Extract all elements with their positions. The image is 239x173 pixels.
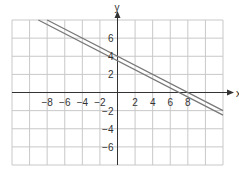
x-tick-label: 4 bbox=[150, 97, 156, 108]
y-tick-label: −6 bbox=[102, 142, 114, 153]
x-tick-label: 8 bbox=[185, 97, 191, 108]
x-tick-label: 2 bbox=[132, 97, 138, 108]
y-tick-label: 2 bbox=[108, 69, 114, 80]
x-tick-label: 6 bbox=[167, 97, 173, 108]
x-tick-label: −6 bbox=[59, 97, 71, 108]
y-tick-label: −2 bbox=[102, 106, 114, 117]
y-tick-label: 4 bbox=[108, 51, 114, 62]
x-tick-label: −8 bbox=[41, 97, 53, 108]
axes bbox=[12, 11, 234, 165]
x-axis-arrow-icon bbox=[227, 90, 234, 96]
x-axis-label: x bbox=[236, 88, 239, 99]
y-tick-label: 6 bbox=[108, 33, 114, 44]
y-axis-label: y bbox=[115, 2, 120, 13]
coordinate-plane-chart: −8−6−4−22468642−2−4−6 x y bbox=[0, 0, 239, 173]
x-tick-label: −4 bbox=[77, 97, 89, 108]
y-tick-label: −4 bbox=[102, 124, 114, 135]
